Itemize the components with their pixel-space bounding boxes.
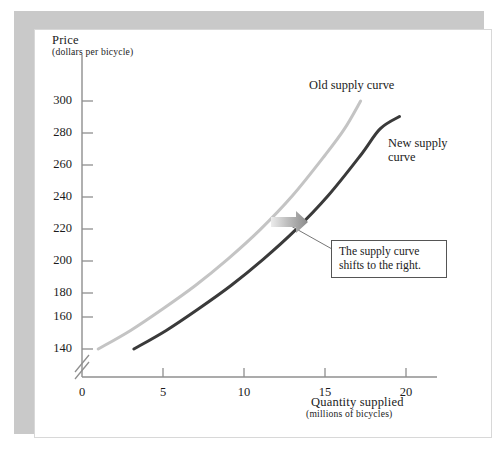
y-tick-label: 240 <box>28 189 72 204</box>
y-tick-label: 280 <box>28 125 72 140</box>
shift-callout-box: The supply curve shifts to the right. <box>331 240 447 278</box>
y-axis-subtitle: (dollars per bicycle) <box>52 46 133 57</box>
y-tick-label: 200 <box>28 253 72 268</box>
x-tick-label: 15 <box>309 385 341 400</box>
x-axis-ticks <box>163 368 406 377</box>
old-supply-curve <box>98 101 360 349</box>
y-tick-label: 300 <box>28 93 72 108</box>
supply-curve-chart: Price (dollars per bicycle) Quantity sup… <box>0 0 498 458</box>
x-tick-label: 0 <box>66 385 98 400</box>
new-supply-curve-label: New supply curve <box>388 136 448 164</box>
y-tick-label: 180 <box>28 285 72 300</box>
x-tick-label: 5 <box>147 385 179 400</box>
x-tick-label: 20 <box>390 385 422 400</box>
new-supply-curve <box>134 117 400 350</box>
y-tick-label: 160 <box>28 309 72 324</box>
x-tick-label: 10 <box>228 385 260 400</box>
y-axis-title-main: Price <box>52 33 79 47</box>
y-axis-ticks <box>82 101 93 349</box>
old-supply-curve-label: Old supply curve <box>309 78 394 92</box>
y-tick-label: 140 <box>28 341 72 356</box>
y-tick-label: 260 <box>28 157 72 172</box>
y-tick-label: 220 <box>28 221 72 236</box>
x-axis-subtitle: (millions of bicycles) <box>306 408 392 419</box>
